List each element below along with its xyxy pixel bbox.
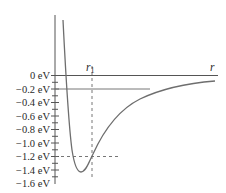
potential-curve — [63, 20, 215, 172]
tick-label: −0.6 eV — [16, 111, 50, 122]
tick-label: −0.2 eV — [16, 84, 50, 95]
x-axis-label: r — [210, 61, 215, 73]
tick-label: −0.4 eV — [16, 97, 50, 108]
tick-label: −1.4 eV — [16, 165, 50, 176]
potential-energy-diagram: 0 eV −0.2 eV −0.4 eV −0.6 eV −0.8 eV −1.… — [0, 0, 226, 193]
y-tick-labels: 0 eV −0.2 eV −0.4 eV −0.6 eV −0.8 eV −1.… — [16, 70, 50, 189]
tick-label: −1.6 eV — [16, 178, 50, 189]
tick-label: −1.0 eV — [16, 138, 50, 149]
tick-label: −1.2 eV — [16, 151, 50, 162]
tick-label: −0.8 eV — [16, 124, 50, 135]
tick-label: 0 eV — [30, 70, 51, 81]
r1-label: r1 — [86, 61, 94, 75]
